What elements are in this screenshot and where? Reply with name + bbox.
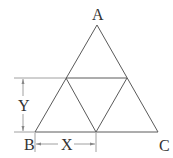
- x-arrow-right-icon: [90, 143, 95, 146]
- vertex-label-a: A: [92, 6, 104, 23]
- triangle-diagram: A B C Y X: [0, 0, 173, 158]
- y-arrow-bottom-icon: [22, 126, 25, 131]
- inner-triangle: [66, 78, 127, 132]
- y-arrow-top-icon: [22, 79, 25, 84]
- vertex-label-c: C: [159, 137, 170, 154]
- dimension-label-x: X: [61, 136, 73, 153]
- dimension-label-y: Y: [18, 97, 30, 114]
- x-arrow-left-icon: [36, 143, 41, 146]
- vertex-label-b: B: [24, 136, 35, 153]
